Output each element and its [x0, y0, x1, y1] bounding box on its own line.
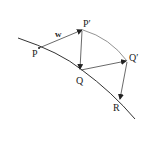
- label-r: R: [113, 103, 120, 113]
- label-q: Q: [76, 76, 83, 86]
- vector-q-q-prime: [81, 61, 126, 70]
- point-p: [38, 47, 40, 49]
- label-p: P: [32, 49, 38, 59]
- vector-p-prime-q: [80, 31, 82, 69]
- diagram-svg: [0, 0, 149, 146]
- label-q-prime: Q′: [129, 53, 138, 63]
- label-w: w: [55, 30, 62, 39]
- diagram-canvas: P′ P w Q Q′ R: [0, 0, 149, 146]
- arc-p-prime-q-prime: [83, 30, 127, 61]
- label-p-prime: P′: [83, 19, 91, 29]
- vector-q-prime-r: [120, 62, 127, 99]
